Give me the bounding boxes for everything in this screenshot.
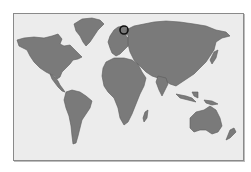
- world-map[interactable]: [0, 0, 251, 172]
- north-america: [17, 34, 82, 79]
- new-zealand: [226, 128, 236, 140]
- indonesia: [176, 92, 198, 102]
- africa: [102, 58, 146, 125]
- new-guinea: [204, 100, 218, 105]
- south-america: [64, 90, 92, 144]
- greenland: [74, 18, 104, 46]
- india: [156, 76, 168, 96]
- australia: [190, 106, 222, 134]
- madagascar: [143, 110, 148, 122]
